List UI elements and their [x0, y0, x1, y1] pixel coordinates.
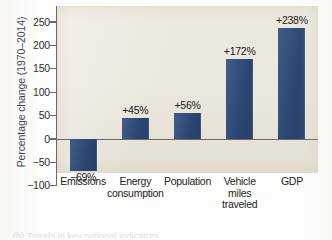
bar	[174, 113, 201, 139]
bar	[278, 28, 305, 139]
y-axis-tick	[50, 92, 57, 93]
bar-value-label: +172%	[208, 46, 272, 57]
bar	[226, 59, 253, 139]
bar	[70, 139, 97, 171]
y-axis-tick	[50, 21, 57, 22]
figure-container: −100−50050100150200250 Percentage change…	[0, 0, 332, 240]
y-axis-tick	[50, 115, 57, 116]
y-axis-tick-label: −100	[16, 180, 50, 190]
y-axis-tick	[50, 45, 57, 46]
y-axis-tick	[50, 68, 57, 69]
y-axis-title: Percentage change (1970–2014)	[15, 4, 27, 180]
category-label-line: GDP	[259, 176, 325, 188]
x-axis-category-label: GDP	[259, 176, 325, 188]
y-axis-tick	[50, 138, 57, 139]
y-axis-line	[56, 6, 57, 185]
category-label-line: consumption	[102, 188, 168, 200]
bar-value-label: +56%	[156, 100, 220, 111]
bar-value-label: +238%	[260, 15, 324, 26]
bar	[122, 118, 149, 139]
figure-caption-sliver: (b) Trends in key national indicators	[13, 231, 163, 238]
y-axis-tick	[50, 162, 57, 163]
category-label-line: traveled	[207, 199, 273, 211]
y-axis-tick-label-wrap: −100	[10, 180, 50, 190]
